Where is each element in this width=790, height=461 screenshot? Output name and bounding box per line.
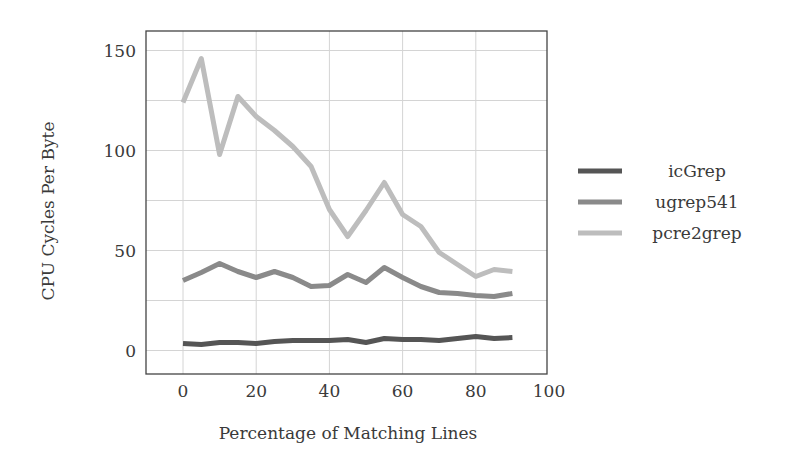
legend: icGrepugrep541pcre2grep — [578, 161, 742, 243]
line-chart: 020406080100 050100150 Percentage of Mat… — [0, 0, 790, 461]
legend-item-icgrep: icGrep — [578, 161, 726, 181]
x-tick-label: 60 — [392, 381, 414, 401]
y-tick-label: 50 — [114, 241, 136, 261]
legend-label: icGrep — [668, 161, 726, 181]
x-tick-label: 100 — [533, 381, 565, 401]
legend-label: pcre2grep — [652, 223, 741, 243]
y-axis-label: CPU Cycles Per Byte — [38, 122, 58, 301]
y-axis-ticks: 050100150 — [104, 41, 136, 361]
x-tick-label: 0 — [178, 381, 189, 401]
x-tick-label: 80 — [465, 381, 487, 401]
legend-label: ugrep541 — [655, 192, 738, 212]
x-tick-label: 20 — [245, 381, 267, 401]
x-axis-ticks: 020406080100 — [178, 381, 566, 401]
series-line-pcre2grep — [183, 59, 512, 277]
x-axis-label: Percentage of Matching Lines — [219, 423, 478, 443]
y-tick-label: 100 — [104, 141, 136, 161]
y-tick-label: 150 — [104, 41, 136, 61]
legend-item-ugrep541: ugrep541 — [578, 192, 739, 212]
series-line-icgrep — [183, 337, 512, 345]
y-tick-label: 0 — [125, 341, 136, 361]
plot-series — [183, 59, 512, 345]
x-tick-label: 40 — [319, 381, 341, 401]
legend-item-pcre2grep: pcre2grep — [578, 223, 742, 243]
